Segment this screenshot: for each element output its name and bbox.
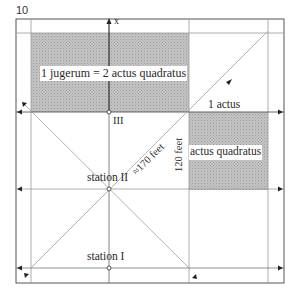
corner-arrow-icon <box>24 273 29 278</box>
corner-arrow-icon <box>192 274 197 279</box>
jugerum-equation-label: 1 jugerum = 2 actus quadratus <box>40 66 187 81</box>
jugerum-diagram: 10 <box>0 0 295 291</box>
point-three-label: III <box>113 116 124 127</box>
left-arrow-icon <box>17 110 22 115</box>
diagonal-cross <box>24 104 189 268</box>
point-three-marker <box>107 110 111 114</box>
left-arrow-icon <box>17 266 22 271</box>
left-arrow-icon <box>17 187 22 192</box>
right-arrow-icon <box>278 266 283 271</box>
diagonal-arrow-icon <box>226 79 232 85</box>
actus-quadratus-label: actus quadratus <box>189 145 262 160</box>
station-two-label: station II <box>87 172 128 184</box>
right-arrow-icon <box>278 187 283 192</box>
station-one-label: station I <box>87 251 124 263</box>
station-two-marker <box>107 187 111 191</box>
right-arrow-icon <box>278 110 283 115</box>
side-length-label: 120 feet <box>174 138 185 172</box>
one-actus-label: 1 actus <box>208 99 240 111</box>
station-one-marker <box>107 266 111 270</box>
axis-x-label: x <box>114 16 119 26</box>
